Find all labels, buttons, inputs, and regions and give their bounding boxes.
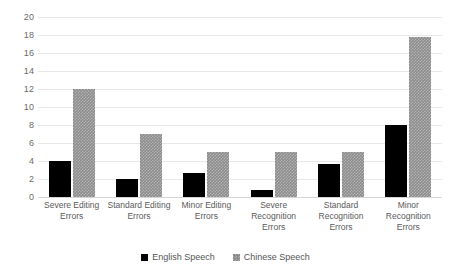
y-axis-tick-label: 18 (24, 30, 34, 40)
bar[interactable] (140, 134, 162, 197)
y-axis-tick-label: 4 (29, 156, 34, 166)
bar[interactable] (385, 125, 407, 197)
bar[interactable] (275, 152, 297, 197)
y-axis-tick-label: 0 (29, 192, 34, 202)
x-axis-label-line: Errors (241, 222, 306, 233)
bar-group (173, 17, 240, 197)
bar[interactable] (409, 37, 431, 197)
x-axis-tick-label: Standard EditingErrors (105, 200, 172, 233)
x-axis-tick-label: SevereRecognitionErrors (240, 200, 307, 233)
legend-swatch-icon (233, 254, 240, 261)
x-axis-label-line: Errors (308, 222, 373, 233)
bar[interactable] (73, 89, 95, 197)
bar-group (105, 17, 172, 197)
bar-group (375, 17, 442, 197)
bar-chart: 02468101214161820 Severe EditingErrorsSt… (0, 0, 451, 274)
legend-label: English Speech (152, 252, 215, 262)
x-axis-label-line: Errors (39, 211, 104, 222)
y-axis-tick-label: 20 (24, 12, 34, 22)
bar[interactable] (342, 152, 364, 197)
legend-item[interactable]: English Speech (141, 252, 215, 262)
x-axis-label-line: Standard Editing (106, 200, 171, 211)
y-axis: 02468101214161820 (0, 17, 34, 197)
y-axis-tick-label: 2 (29, 174, 34, 184)
bar[interactable] (183, 173, 205, 197)
y-axis-tick-label: 14 (24, 66, 34, 76)
bar[interactable] (318, 164, 340, 197)
x-axis-label-line: Severe Editing (39, 200, 104, 211)
x-axis-label-line: Errors (106, 211, 171, 222)
y-axis-tick-label: 12 (24, 84, 34, 94)
x-axis-tick-label: MinorRecognitionErrors (375, 200, 442, 233)
x-axis-label-line: Standard (308, 200, 373, 211)
bar[interactable] (207, 152, 229, 197)
bar-group (38, 17, 105, 197)
y-axis-tick-label: 10 (24, 102, 34, 112)
x-axis-label-line: Recognition (376, 211, 441, 222)
bar[interactable] (49, 161, 71, 197)
x-axis-label-line: Recognition (308, 211, 373, 222)
x-axis-tick-label: Minor EditingErrors (173, 200, 240, 233)
y-axis-tick-label: 8 (29, 120, 34, 130)
x-axis-label-line: Recognition (241, 211, 306, 222)
chart-legend: English SpeechChinese Speech (0, 252, 451, 262)
y-axis-tick-label: 6 (29, 138, 34, 148)
bar[interactable] (251, 190, 273, 197)
x-axis-label-line: Errors (174, 211, 239, 222)
x-axis-label-line: Minor (376, 200, 441, 211)
bar[interactable] (116, 179, 138, 197)
legend-label: Chinese Speech (244, 252, 310, 262)
bar-group (307, 17, 374, 197)
x-axis-label-line: Severe (241, 200, 306, 211)
bar-group (240, 17, 307, 197)
x-axis-label-line: Minor Editing (174, 200, 239, 211)
x-axis: Severe EditingErrorsStandard EditingErro… (38, 200, 442, 233)
legend-item[interactable]: Chinese Speech (233, 252, 310, 262)
x-axis-tick-label: StandardRecognitionErrors (307, 200, 374, 233)
y-axis-tick-label: 16 (24, 48, 34, 58)
x-axis-label-line: Errors (376, 222, 441, 233)
x-axis-tick-label: Severe EditingErrors (38, 200, 105, 233)
legend-swatch-icon (141, 254, 148, 261)
axis-baseline (38, 197, 442, 198)
bar-groups (38, 17, 442, 197)
